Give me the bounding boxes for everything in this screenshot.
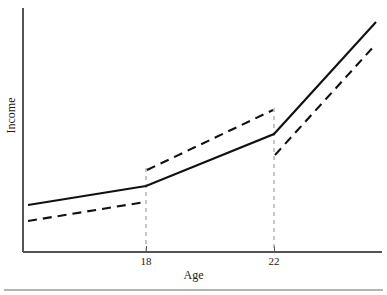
series-solid-line — [28, 22, 376, 205]
x-axis-title: Age — [0, 268, 387, 283]
chart-plot-area — [0, 0, 387, 295]
chart-figure: 18 22 Age Income — [0, 0, 387, 295]
y-axis-title: Income — [4, 86, 19, 146]
x-tick-label-22: 22 — [258, 256, 290, 267]
x-tick-label-18: 18 — [130, 256, 162, 267]
series-dashed-segment-pre18 — [28, 202, 145, 221]
series-dashed-segment-post22 — [275, 44, 376, 155]
